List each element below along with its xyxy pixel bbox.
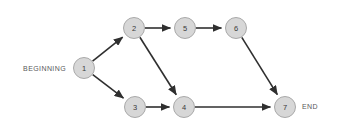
edge-1-to-3 bbox=[93, 75, 124, 99]
node-5[interactable]: 5 bbox=[175, 18, 196, 39]
node-6[interactable]: 6 bbox=[226, 18, 247, 39]
node-label-2: 2 bbox=[132, 24, 136, 33]
edges-layer bbox=[93, 28, 278, 107]
edge-1-to-2 bbox=[93, 37, 123, 61]
edge-2-to-4 bbox=[140, 37, 176, 94]
node-4[interactable]: 4 bbox=[174, 97, 195, 118]
beginning-label: BEGINNING bbox=[23, 65, 66, 72]
node-label-4: 4 bbox=[182, 103, 186, 112]
end-label: END bbox=[302, 103, 318, 110]
node-label-5: 5 bbox=[183, 24, 187, 33]
network-diagram: 1234567 BEGINNINGEND bbox=[0, 0, 337, 128]
node-1[interactable]: 1 bbox=[74, 58, 95, 79]
node-label-6: 6 bbox=[234, 24, 238, 33]
node-label-7: 7 bbox=[283, 103, 287, 112]
node-label-3: 3 bbox=[133, 103, 137, 112]
node-3[interactable]: 3 bbox=[125, 97, 146, 118]
node-7[interactable]: 7 bbox=[275, 97, 296, 118]
node-label-1: 1 bbox=[82, 64, 86, 73]
node-2[interactable]: 2 bbox=[124, 18, 145, 39]
edge-6-to-7 bbox=[242, 37, 278, 94]
nodes-layer: 1234567 bbox=[74, 18, 296, 118]
network-diagram-canvas: 1234567 BEGINNINGEND bbox=[0, 0, 337, 128]
